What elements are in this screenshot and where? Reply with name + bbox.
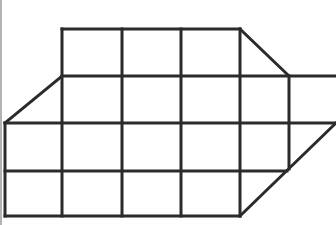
grid-shape-diagram bbox=[0, 0, 336, 225]
diagram-background bbox=[0, 0, 336, 225]
